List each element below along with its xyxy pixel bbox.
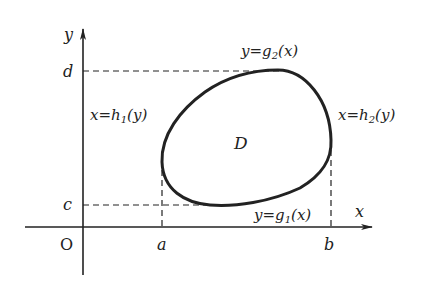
region-diagram: y x O d c a b D y=g2(x) y=g1(x) x=h1(y) … bbox=[0, 0, 438, 286]
bottom-boundary-equation: y=g1(x) bbox=[253, 206, 311, 225]
eq-fn: g bbox=[262, 42, 272, 60]
eq-fn: h bbox=[111, 106, 121, 124]
eq-sub: 2 bbox=[271, 50, 278, 61]
eq-sign: = bbox=[346, 106, 359, 124]
eq-sub: 2 bbox=[368, 114, 375, 125]
tick-a-label: a bbox=[157, 235, 167, 254]
origin-label: O bbox=[60, 235, 73, 254]
eq-arg: (y) bbox=[127, 106, 147, 124]
eq-arg: (x) bbox=[278, 42, 298, 60]
top-boundary-equation: y=g2(x) bbox=[240, 42, 298, 61]
y-axis-label: y bbox=[63, 25, 74, 44]
tick-d-label: d bbox=[63, 62, 73, 81]
eq-fn: h bbox=[359, 106, 369, 124]
eq-arg: (x) bbox=[291, 206, 311, 224]
eq-sign: = bbox=[262, 206, 275, 224]
eq-fn: g bbox=[275, 206, 285, 224]
tick-c-label: c bbox=[63, 195, 72, 214]
eq-arg: (y) bbox=[375, 106, 395, 124]
eq-sign: = bbox=[249, 42, 262, 60]
left-boundary-equation: x=h1(y) bbox=[90, 106, 147, 125]
region-label: D bbox=[233, 133, 248, 153]
right-boundary-equation: x=h2(y) bbox=[338, 106, 395, 125]
eq-sign: = bbox=[98, 106, 111, 124]
x-axis-label: x bbox=[355, 202, 364, 221]
diagram-canvas: y x O d c a b D y=g2(x) y=g1(x) x=h1(y) … bbox=[0, 0, 438, 286]
tick-b-label: b bbox=[324, 235, 334, 254]
